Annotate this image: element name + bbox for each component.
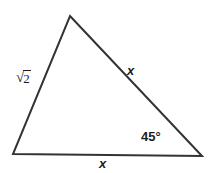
radical-group: √2 — [16, 70, 31, 85]
radicand-value: 2 — [23, 70, 31, 85]
angle-label-bottom-right-45deg: 45° — [141, 130, 161, 143]
side-label-right-x: x — [127, 64, 134, 77]
radical-sign-icon: √ — [16, 70, 24, 85]
triangle-outline — [13, 16, 202, 156]
side-label-bottom-x: x — [99, 157, 106, 170]
side-label-left-sqrt2: √2 — [16, 70, 31, 85]
triangle-figure: √2 x x 45° — [0, 0, 213, 173]
triangle-canvas — [0, 0, 213, 173]
